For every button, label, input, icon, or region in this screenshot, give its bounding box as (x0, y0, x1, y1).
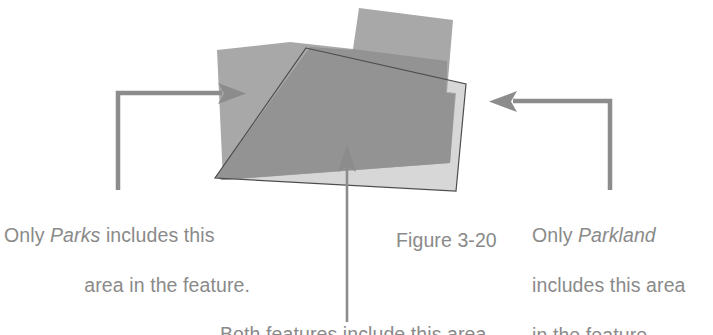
figure-number: Figure 3-20 (396, 228, 536, 253)
right-callout-prefix: Only (532, 224, 578, 246)
right-callout-line-two: includes this area (532, 273, 713, 298)
left-callout-emphasis: Parks (50, 224, 100, 246)
left-callout-label: Only Parks includes this area in the fea… (4, 198, 272, 323)
right-callout-arrow (489, 91, 610, 190)
right-callout-line-one: Only Parkland (532, 223, 713, 248)
left-callout-line-one: Only Parks includes this (4, 223, 272, 248)
left-callout-prefix: Only (4, 224, 50, 246)
right-callout-label: Only Parkland includes this area in the … (532, 198, 713, 335)
right-callout-line-three: in the feature. (532, 323, 713, 335)
left-callout-line-two: area in the feature. (4, 273, 272, 298)
right-callout-emphasis: Parkland (578, 224, 656, 246)
left-callout-suffix: includes this (100, 224, 214, 246)
bottom-callout-label: Both features include this area. (186, 322, 526, 335)
figure-page: Only Parks includes this area in the fea… (0, 0, 713, 335)
